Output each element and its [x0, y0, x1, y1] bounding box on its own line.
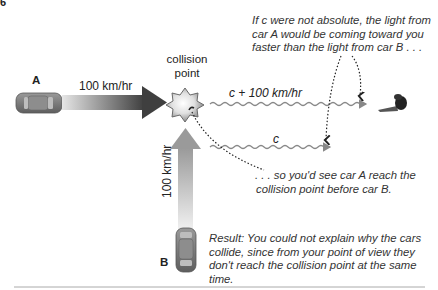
light-a-label: c + 100 km/hr	[229, 86, 302, 100]
pointer-to-light-b	[326, 56, 341, 140]
collision-label-line1: collision	[162, 52, 212, 66]
collision-point-label: collision point	[162, 52, 212, 80]
annotation-middle-line: collision point before car B.	[255, 183, 416, 197]
result-line: Result: You could not explain why the ca…	[209, 232, 438, 246]
car-a-icon	[16, 93, 62, 113]
arrow-car-b-icon	[170, 128, 201, 243]
light-a-text: c + 100 km/hr	[229, 86, 302, 100]
car-b-speed: 100 km/hr	[160, 145, 174, 198]
observer-icon	[378, 94, 407, 112]
car-a-label: A	[32, 74, 40, 86]
pointer-to-collision	[192, 112, 264, 170]
annotation-top: If c were not absolute, the light from c…	[252, 14, 431, 55]
collision-label-line2: point	[162, 66, 212, 80]
annotation-top-line: faster than the light from car B . . .	[252, 41, 431, 55]
light-ray-a-icon	[210, 103, 366, 106]
annotation-middle-line: . . . so you'd see car A reach the	[255, 169, 416, 183]
annotation-top-line: If c were not absolute, the light from	[252, 14, 431, 28]
car-b-label: B	[160, 256, 168, 268]
pointer-to-light-a	[352, 56, 361, 96]
car-b-icon	[176, 228, 196, 272]
result-line: collide, since from your point of view t…	[209, 246, 438, 260]
annotation-middle: . . . so you'd see car A reach the colli…	[255, 169, 416, 196]
result-line: don't reach the collision point at the s…	[209, 259, 438, 286]
collision-burst-icon	[166, 88, 204, 122]
annotation-top-line: car A would be coming toward you	[252, 28, 431, 42]
car-a-speed: 100 km/hr	[79, 79, 132, 93]
result-caption: Result: You could not explain why the ca…	[209, 232, 438, 286]
figure-corner-mark: 6	[0, 0, 6, 8]
light-b-label: c	[273, 132, 279, 146]
light-ray-b-icon	[210, 146, 330, 149]
